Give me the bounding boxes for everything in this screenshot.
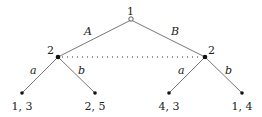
left-action-a-label: a: [30, 64, 37, 77]
payoff-label: 1, 4: [232, 100, 253, 113]
edge-A: [58, 20, 131, 57]
edge-left-b: [58, 57, 95, 93]
edge-B: [131, 20, 205, 57]
edge-right-b: [205, 57, 242, 93]
left-action-b-label: b: [78, 64, 85, 77]
player2-right-node: [203, 55, 208, 60]
leaf-node: [240, 91, 244, 95]
player2-left-node: [56, 55, 61, 60]
leaf-node: [93, 91, 97, 95]
payoff-label: 1, 3: [12, 100, 33, 113]
action-B-label: B: [170, 25, 179, 38]
payoff-label: 2, 5: [85, 100, 106, 113]
edge-right-a: [169, 57, 205, 93]
leaf-node: [167, 91, 171, 95]
right-action-b-label: b: [225, 64, 232, 77]
game-tree: 1 2 2 A B a b a b 1, 3 2, 5 4, 3 1, 4: [0, 0, 262, 117]
root-player-label: 1: [127, 5, 134, 18]
action-A-label: A: [83, 25, 92, 38]
leaf-node: [20, 91, 24, 95]
payoff-label: 4, 3: [159, 100, 180, 113]
right-action-a-label: a: [178, 64, 185, 77]
edge-left-a: [22, 57, 58, 93]
left-player-label: 2: [47, 44, 54, 57]
right-player-label: 2: [208, 44, 215, 57]
